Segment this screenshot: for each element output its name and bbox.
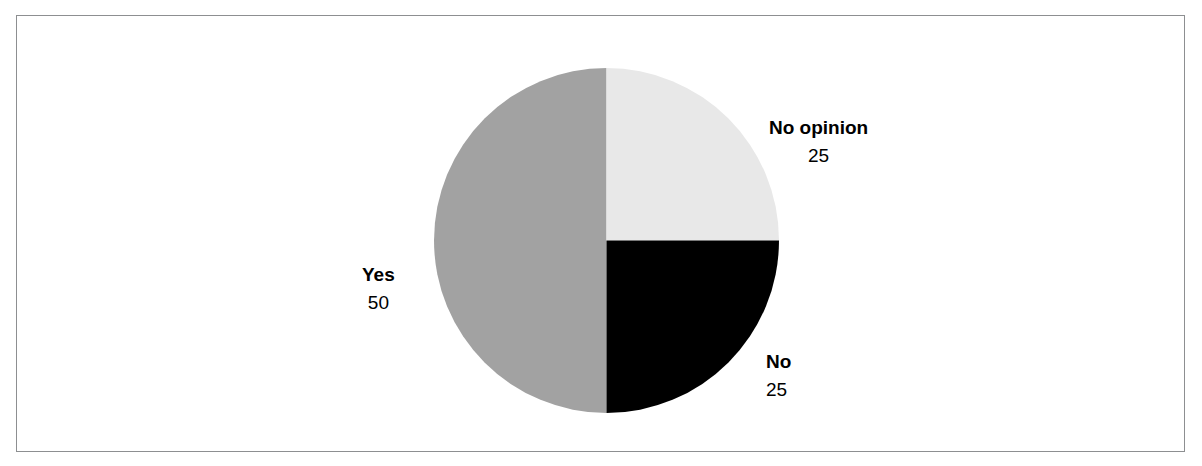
pie-label-no-value: 25 — [766, 380, 791, 399]
pie-slice-no[interactable] — [607, 241, 780, 414]
pie-label-no-opinion: No opinion 25 — [769, 118, 868, 165]
pie-label-no-opinion-value: 25 — [769, 146, 868, 165]
chart-figure: No opinion 25 Yes 50 No 25 — [0, 0, 1202, 466]
pie-label-yes: Yes 50 — [362, 265, 395, 312]
pie-label-no-name: No — [766, 352, 791, 371]
pie-slice-no-opinion[interactable] — [607, 68, 780, 241]
pie-chart-graphic — [434, 68, 779, 413]
pie-label-yes-value: 50 — [362, 293, 395, 312]
pie-label-no-opinion-name: No opinion — [769, 118, 868, 137]
pie-label-no: No 25 — [766, 352, 791, 399]
pie-chart-plot-area: No opinion 25 Yes 50 No 25 — [0, 0, 1202, 466]
pie-label-yes-name: Yes — [362, 265, 395, 284]
pie-slice-yes[interactable] — [434, 68, 607, 413]
